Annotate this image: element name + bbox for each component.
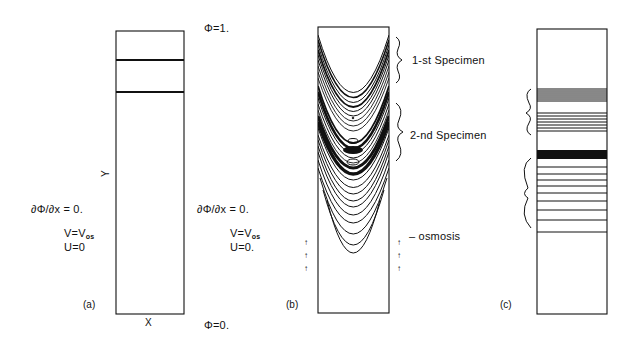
top-boundary-condition: Φ=1. [204, 22, 229, 34]
arrow-up-icon: ↑ [304, 238, 308, 247]
right-u-label: U=0. [230, 241, 254, 253]
right-v-label: V=V [230, 227, 252, 239]
specimen-1-brace [396, 37, 402, 83]
panel-c-banded-column [524, 29, 607, 314]
arrow-up-icon: ↑ [397, 264, 401, 273]
right-neumann-bc: ∂Φ/∂x = 0. [197, 203, 249, 215]
right-osmosis-arrows: ↑ ↑ ↑ [397, 236, 401, 275]
panel-b-contour-plot [318, 27, 403, 313]
arrow-up-icon: ↑ [397, 251, 401, 260]
right-v-subscript: os [252, 233, 261, 240]
left-v-subscript: os [86, 233, 95, 240]
bottom-boundary-condition: Φ=0. [204, 319, 229, 331]
y-axis-label: Y [100, 170, 111, 177]
panel-c-label: (c) [500, 299, 512, 310]
arrow-up-icon: ↑ [304, 251, 308, 260]
left-velocity-bc: V=Vos U=0 [64, 228, 94, 253]
specimen-2-label: 2-nd Specimen [410, 129, 487, 141]
arrow-up-icon: ↑ [304, 264, 308, 273]
specimen-2-brace [396, 103, 403, 161]
specimen-2-brace-c [524, 158, 531, 228]
x-axis-label: X [145, 317, 152, 328]
right-velocity-bc: V=Vos U=0. [230, 228, 260, 253]
left-v-label: V=V [64, 227, 86, 239]
osmosis-label: – osmosis [409, 230, 460, 242]
left-u-label: U=0 [64, 241, 85, 253]
figure-graphics [0, 0, 638, 337]
panel-a-label: (a) [83, 299, 95, 310]
specimen-1-label: 1-st Specimen [412, 54, 485, 66]
arrow-up-icon: ↑ [397, 238, 401, 247]
panel-a-domain [116, 31, 184, 314]
left-osmosis-arrows: ↑ ↑ ↑ [304, 236, 308, 275]
left-neumann-bc: ∂Φ/∂x = 0. [31, 203, 83, 215]
panel-b-label: (b) [286, 299, 298, 310]
specimen-1-brace-c [526, 89, 531, 135]
